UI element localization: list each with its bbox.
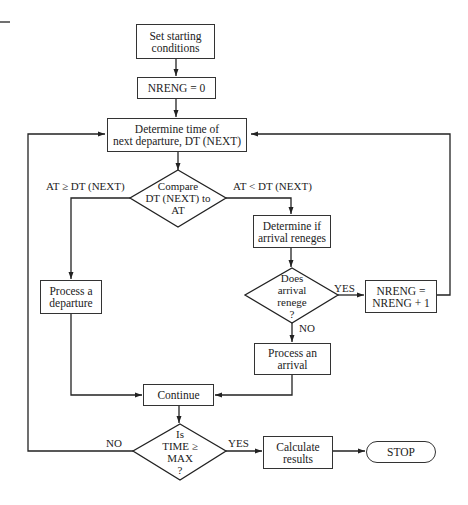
- renege-no-label: NO: [299, 322, 315, 334]
- time-yes-label: YES: [228, 437, 249, 449]
- increment-nreng-box: NRENG = NRENG + 1: [365, 280, 437, 313]
- init-nreng-box: NRENG = 0: [137, 77, 216, 99]
- compare-decision: Compare DT (NEXT) to AT: [138, 175, 218, 221]
- at-ge-label: AT ≥ DT (NEXT): [46, 180, 125, 192]
- renege-yes-label: YES: [334, 282, 355, 294]
- departure-box: Process a departure: [40, 280, 102, 314]
- arrival-box: Process an arrival: [254, 343, 331, 375]
- start-box: Set starting conditions: [136, 24, 215, 59]
- next-departure-box: Determine time of next departure, DT (NE…: [107, 118, 247, 152]
- stop-terminal: STOP: [366, 441, 436, 463]
- continue-box: Continue: [143, 384, 214, 406]
- flowchart-connectors: [0, 0, 468, 505]
- time-no-label: NO: [106, 437, 122, 449]
- calculate-box: Calculate results: [263, 436, 333, 469]
- time-check-decision: Is TIME ≥ MAX ?: [148, 428, 212, 476]
- does-renege-decision: Does arrival renege ?: [260, 272, 324, 320]
- at-lt-label: AT < DT (NEXT): [233, 180, 312, 192]
- reneges-box: Determine if arrival reneges: [253, 215, 331, 248]
